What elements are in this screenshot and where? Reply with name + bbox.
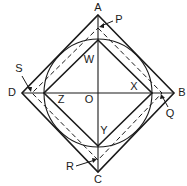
leader-p [99,21,113,28]
label-q: Q [166,107,175,119]
label-z: Z [58,93,65,105]
label-b: B [178,86,185,98]
dashed-square [32,28,162,160]
label-d: D [8,86,16,98]
label-r: R [66,160,74,172]
label-y: Y [100,124,108,136]
label-w: W [84,53,95,65]
label-a: A [94,1,102,13]
label-c: C [94,173,102,185]
label-p: P [115,13,122,25]
label-s: S [15,62,22,74]
geometry-diagram: A B C D O P Q R S W X Y Z [0,0,187,186]
label-o: O [85,93,94,105]
label-x: X [130,80,138,92]
